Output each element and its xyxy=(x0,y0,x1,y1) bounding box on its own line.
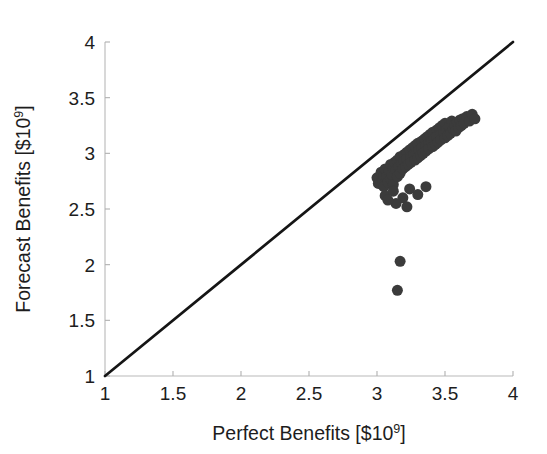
data-point xyxy=(382,195,393,206)
one-to-one-reference-line xyxy=(105,42,513,376)
scatter-plot-figure: 11.522.533.54 11.522.533.54 Perfect Bene… xyxy=(0,0,547,454)
x-tick-label: 4 xyxy=(508,383,519,404)
x-tick-label: 1 xyxy=(100,383,111,404)
x-axis-tick-labels: 11.522.533.54 xyxy=(100,383,519,404)
data-point xyxy=(412,189,423,200)
y-tick-label: 1.5 xyxy=(69,310,95,331)
data-point xyxy=(395,256,406,267)
data-point-markers xyxy=(372,109,481,296)
plot-canvas: 11.522.533.54 11.522.533.54 Perfect Bene… xyxy=(0,0,547,454)
y-tick-label: 4 xyxy=(84,32,95,53)
y-tick-label: 3.5 xyxy=(69,88,95,109)
x-tick-label: 2.5 xyxy=(296,383,322,404)
x-tick-label: 1.5 xyxy=(160,383,186,404)
x-axis-title: Perfect Benefits [$109] xyxy=(212,422,405,444)
data-point xyxy=(401,201,412,212)
y-tick-label: 2 xyxy=(84,255,95,276)
y-tick-label: 3 xyxy=(84,143,95,164)
y-tick-label: 2.5 xyxy=(69,199,95,220)
y-axis-title: Forecast Benefits [$109] xyxy=(12,105,34,312)
y-axis-tick-labels: 11.522.533.54 xyxy=(69,32,96,387)
x-tick-label: 2 xyxy=(236,383,247,404)
data-point xyxy=(420,181,431,192)
x-tick-label: 3.5 xyxy=(432,383,458,404)
x-tick-label: 3 xyxy=(372,383,383,404)
data-point xyxy=(469,113,480,124)
y-tick-label: 1 xyxy=(84,366,95,387)
data-point xyxy=(392,285,403,296)
